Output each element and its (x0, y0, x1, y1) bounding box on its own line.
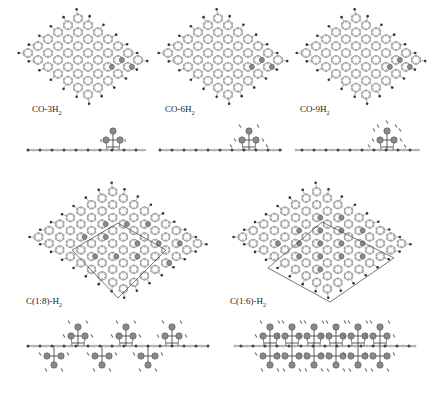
carbon-atom (165, 232, 167, 234)
adsorbate-atom (253, 137, 259, 143)
hydrogen-atom (276, 205, 279, 208)
sheet-atom (105, 345, 108, 348)
carbon-atom (143, 227, 145, 229)
carbon-atom (179, 228, 181, 230)
carbon-atom (233, 75, 235, 77)
carbon-atom (98, 238, 100, 240)
carbon-atom (330, 251, 332, 253)
carbon-atom (294, 265, 296, 267)
carbon-atom (395, 55, 397, 57)
carbon-atom (140, 208, 142, 210)
adsorbate-atom (103, 137, 109, 143)
carbon-atom (316, 239, 318, 241)
carbon-atom (154, 272, 156, 274)
hydrogen-atom (353, 96, 356, 99)
carbon-atom (284, 206, 286, 208)
carbon-atom (147, 251, 149, 253)
carbon-atom (57, 69, 59, 71)
carbon-atom (381, 50, 383, 52)
adsorbed-atom (318, 215, 323, 220)
carbon-atom (386, 251, 388, 253)
carbon-atom (302, 277, 304, 279)
carbon-atom (203, 40, 205, 42)
carbon-atom (119, 286, 121, 288)
carbon-atom (101, 258, 103, 260)
carbon-atom (359, 15, 361, 17)
adsorbed-atom (249, 64, 254, 69)
carbon-atom (112, 200, 114, 202)
hydrogen-atom (328, 25, 331, 28)
carbon-atom (98, 273, 100, 275)
sheet-atom (99, 149, 102, 152)
carbon-atom (323, 273, 325, 275)
carbon-atom (287, 225, 289, 227)
carbon-atom (94, 244, 96, 246)
adsorbed-atom (339, 254, 344, 259)
carbon-atom (104, 277, 106, 279)
carbon-atom (107, 34, 109, 36)
hydrogen-atom (215, 96, 218, 99)
carbon-atom (73, 215, 75, 217)
hydrogen-atom (28, 43, 31, 46)
carbon-atom (305, 193, 307, 195)
carbon-atom (59, 219, 61, 221)
carbon-atom (379, 47, 381, 49)
carbon-atom (294, 259, 296, 261)
carbon-atom (243, 64, 245, 66)
carbon-atom (41, 234, 43, 236)
carbon-atom (351, 47, 353, 49)
carbon-atom (252, 226, 254, 228)
carbon-atom (354, 254, 356, 256)
carbon-atom (337, 233, 339, 235)
carbon-atom (284, 265, 286, 267)
carbon-atom (197, 63, 199, 65)
carbon-atom (263, 245, 265, 247)
adsorbate-atom (326, 353, 332, 359)
carbon-atom (308, 234, 310, 236)
carbon-atom (333, 283, 335, 285)
carbon-atom (103, 36, 105, 38)
carbon-atom (294, 239, 296, 241)
carbon-atom (321, 40, 323, 42)
carbon-atom (62, 221, 64, 223)
carbon-atom (165, 240, 167, 242)
carbon-atom (379, 29, 381, 31)
carbon-atom (140, 277, 142, 279)
carbon-atom (375, 77, 377, 79)
carbon-atom (55, 247, 57, 249)
adsorbate-atom (311, 362, 317, 368)
carbon-atom (129, 202, 131, 204)
h2-molecule (400, 139, 402, 142)
adsorbate-atom (274, 353, 280, 359)
carbon-atom (233, 71, 235, 73)
carbon-atom (241, 47, 243, 49)
carbon-atom (344, 238, 346, 240)
carbon-atom (66, 218, 68, 220)
carbon-atom (340, 279, 342, 281)
carbon-atom (381, 82, 383, 84)
carbon-atom (390, 232, 392, 234)
h2-molecule (87, 353, 89, 356)
h2-molecule (393, 335, 395, 338)
carbon-atom (277, 218, 279, 220)
carbon-atom (385, 48, 387, 50)
carbon-atom (147, 260, 149, 262)
carbon-atom (395, 49, 397, 51)
carbon-atom (263, 240, 265, 242)
carbon-atom (309, 54, 311, 56)
carbon-atom (294, 246, 296, 248)
carbon-atom (87, 254, 89, 256)
carbon-atom (172, 257, 174, 259)
carbon-atom (247, 56, 249, 58)
carbon-atom (57, 41, 59, 43)
carbon-atom (168, 251, 170, 253)
carbon-atom (376, 254, 378, 256)
carbon-atom (365, 62, 367, 64)
adsorbed-atom (397, 57, 402, 62)
sheet-atom (234, 345, 237, 348)
h2-molecule (370, 321, 372, 324)
hydrogen-atom (190, 78, 193, 81)
carbon-atom (267, 56, 269, 58)
sheet-atom (366, 345, 369, 348)
carbon-atom (273, 57, 275, 59)
